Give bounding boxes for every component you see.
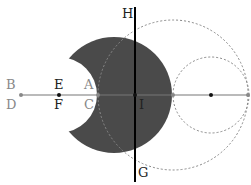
diagram-canvas xyxy=(0,0,251,185)
label-E: E xyxy=(54,78,64,91)
geometry-diagram: B D E F A C H I G xyxy=(0,0,251,185)
point-far-right xyxy=(246,93,250,97)
label-D: D xyxy=(6,98,16,111)
point-B xyxy=(19,93,23,97)
label-I: I xyxy=(139,98,144,111)
label-A: A xyxy=(84,78,93,91)
point-right-edge xyxy=(171,93,175,97)
label-H: H xyxy=(122,7,133,20)
label-G: G xyxy=(138,166,148,179)
label-F: F xyxy=(54,98,63,111)
point-A xyxy=(96,93,100,97)
point-right-center xyxy=(209,93,213,97)
point-I xyxy=(133,93,137,97)
label-B: B xyxy=(6,78,16,91)
label-C: C xyxy=(84,98,94,111)
